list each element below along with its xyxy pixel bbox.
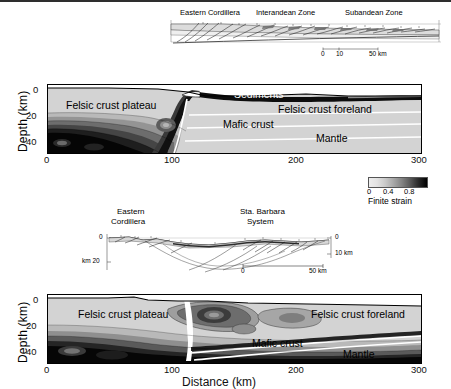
inset-bottom-scale-bar-end: 50 km bbox=[309, 267, 327, 274]
inset-top-zone-label-eastern-cordillera: Eastern Cordillera bbox=[180, 8, 240, 17]
inset-bottom-cross-section: Eastern Cordillera Sta. Barbara System 0… bbox=[85, 208, 355, 280]
panel-top-x-tick-300: 300 bbox=[411, 154, 427, 165]
inset-top-cross-section: Eastern Cordillera Interandean Zone Suba… bbox=[163, 8, 448, 56]
scan-edge-artifact bbox=[0, 0, 451, 2]
inset-bottom-left-axis-depth-tick: km 20 bbox=[82, 257, 100, 264]
panel-top-x-tick-100: 100 bbox=[164, 154, 180, 165]
inset-top-scale-tick-50km: 50 km bbox=[369, 50, 387, 57]
panel-bottom-x-tick-0: 0 bbox=[44, 364, 49, 375]
inset-bottom-left-axis-top-tick: 0 bbox=[99, 233, 103, 240]
inset-bottom-zone-label-system: System bbox=[247, 217, 274, 227]
panel-bottom-y-tick-20: 20 bbox=[26, 320, 37, 331]
colorbar-tick-08: 0.8 bbox=[404, 187, 414, 196]
inset-top-zone-label-interandean-zone: Interandean Zone bbox=[256, 8, 315, 17]
inset-bottom-right-axis-top-tick: 0 bbox=[335, 233, 339, 240]
inset-top-scale-tick-10: 10 bbox=[336, 50, 343, 57]
panel-top-x-tick-0: 0 bbox=[44, 154, 49, 165]
inset-bottom-scale-bar-start: 0 bbox=[241, 267, 245, 274]
panel-top-model-svg bbox=[48, 85, 421, 153]
panel-bottom-x-axis-label: Distance (km) bbox=[182, 375, 256, 389]
panel-bottom-y-tick-0: 0 bbox=[33, 294, 38, 305]
panel-bottom-model-box: Felsic crust plateau Felsic crust forela… bbox=[47, 294, 422, 364]
inset-bottom-right-axis-depth-tick: 10 km bbox=[335, 249, 353, 256]
inset-bottom-zone-label-eastern: Eastern bbox=[117, 207, 145, 217]
panel-top-y-tick-20: 20 bbox=[26, 110, 37, 121]
panel-top-model-box: Felsic crust plateau Sediments Felsic cr… bbox=[47, 84, 422, 154]
panel-bottom-model-svg bbox=[48, 295, 421, 363]
panel-top: Depth (km) 0 20 40 bbox=[0, 62, 451, 172]
inset-bottom-zone-label-sta-barbara: Sta. Barbara bbox=[240, 207, 285, 217]
panel-bottom-y-tick-40: 40 bbox=[26, 346, 37, 357]
colorbar-caption: Finite strain bbox=[368, 196, 412, 206]
panel-top-x-tick-200: 200 bbox=[288, 154, 304, 165]
panel-top-y-tick-40: 40 bbox=[26, 136, 37, 147]
colorbar-tick-04: 0.4 bbox=[383, 187, 393, 196]
colorbar-gradient bbox=[368, 177, 428, 188]
panel-bottom-x-tick-100: 100 bbox=[164, 364, 180, 375]
inset-top-zone-label-subandean-zone: Subandean Zone bbox=[345, 8, 403, 17]
inset-top-scale-tick-0: 0 bbox=[321, 50, 325, 57]
colorbar-tick-0: 0 bbox=[367, 187, 371, 196]
panel-bottom-x-tick-300: 300 bbox=[411, 364, 427, 375]
colorbar-legend: 0 0.4 0.8 Finite strain bbox=[368, 177, 448, 207]
panel-bottom: Depth (km) 0 20 40 bbox=[0, 285, 451, 388]
panel-top-y-tick-0: 0 bbox=[33, 84, 38, 95]
panel-bottom-x-tick-200: 200 bbox=[288, 364, 304, 375]
inset-bottom-zone-label-cordillera: Cordillera bbox=[111, 217, 145, 227]
